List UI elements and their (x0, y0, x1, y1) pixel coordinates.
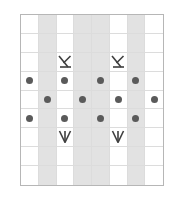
chart-cell-r2-c8 (145, 147, 163, 166)
left-leaning-decrease-icon (110, 54, 126, 70)
purl-dot-icon (79, 96, 86, 103)
chart-cell-r7-c7 (128, 53, 146, 72)
chart-cell-r1-c3 (57, 166, 75, 185)
chart-cell-r3-c1 (21, 128, 39, 147)
purl-dot-icon (26, 77, 33, 84)
chart-cell-r1-c1 (21, 166, 39, 185)
double-decrease-arrow-icon (110, 129, 126, 145)
chart-cell-r3-c2 (39, 128, 57, 147)
chart-cell-r8-c4 (74, 34, 92, 53)
chart-grid (20, 14, 164, 186)
chart-cell-r7-c1 (21, 53, 39, 72)
chart-cell-r6-c1 (21, 72, 39, 91)
chart-grid-wrapper: 864297531 (20, 14, 164, 186)
chart-cell-r9-c2 (39, 15, 57, 34)
chart-cell-r5-c4 (74, 91, 92, 110)
chart-cell-r9-c8 (145, 15, 163, 34)
chart-cell-r4-c6 (110, 109, 128, 128)
chart-cell-r6-c4 (74, 72, 92, 91)
chart-cell-r3-c5 (92, 128, 110, 147)
chart-cell-r5-c7 (128, 91, 146, 110)
chart-cell-r2-c5 (92, 147, 110, 166)
chart-cell-r9-c6 (110, 15, 128, 34)
chart-cell-r2-c7 (128, 147, 146, 166)
chart-cell-r5-c3 (57, 91, 75, 110)
chart-cell-r7-c8 (145, 53, 163, 72)
purl-dot-icon (61, 77, 68, 84)
chart-cell-r4-c5 (92, 109, 110, 128)
chart-cell-r5-c5 (92, 91, 110, 110)
chart-cell-r8-c8 (145, 34, 163, 53)
chart-cell-r7-c3 (57, 53, 75, 72)
purl-dot-icon (115, 96, 122, 103)
chart-cell-r2-c4 (74, 147, 92, 166)
chart-cell-r5-c2 (39, 91, 57, 110)
chart-cell-r5-c1 (21, 91, 39, 110)
purl-dot-icon (132, 115, 139, 122)
purl-dot-icon (97, 115, 104, 122)
purl-dot-icon (151, 96, 158, 103)
double-decrease-arrow-icon (57, 129, 73, 145)
chart-cell-r3-c8 (145, 128, 163, 147)
knitting-chart: 864297531 (0, 0, 186, 199)
chart-cell-r5-c8 (145, 91, 163, 110)
chart-cell-r2-c1 (21, 147, 39, 166)
chart-cell-r4-c7 (128, 109, 146, 128)
chart-cell-r7-c4 (74, 53, 92, 72)
chart-cell-r1-c4 (74, 166, 92, 185)
chart-cell-r8-c1 (21, 34, 39, 53)
chart-cell-r7-c2 (39, 53, 57, 72)
chart-cell-r1-c7 (128, 166, 146, 185)
chart-cell-r8-c7 (128, 34, 146, 53)
chart-cell-r6-c5 (92, 72, 110, 91)
chart-cell-r6-c6 (110, 72, 128, 91)
chart-cell-r9-c3 (57, 15, 75, 34)
chart-cell-r1-c5 (92, 166, 110, 185)
chart-cell-r9-c4 (74, 15, 92, 34)
chart-cell-r7-c6 (110, 53, 128, 72)
chart-cell-r8-c2 (39, 34, 57, 53)
chart-cell-r8-c6 (110, 34, 128, 53)
purl-dot-icon (132, 77, 139, 84)
chart-cell-r7-c5 (92, 53, 110, 72)
chart-cell-r5-c6 (110, 91, 128, 110)
chart-cell-r6-c2 (39, 72, 57, 91)
chart-cell-r8-c5 (92, 34, 110, 53)
chart-cell-r4-c1 (21, 109, 39, 128)
chart-cell-r3-c3 (57, 128, 75, 147)
chart-cell-r1-c6 (110, 166, 128, 185)
chart-cell-r3-c4 (74, 128, 92, 147)
chart-cell-r9-c5 (92, 15, 110, 34)
chart-cell-r6-c8 (145, 72, 163, 91)
chart-cell-r9-c1 (21, 15, 39, 34)
chart-cell-r1-c8 (145, 166, 163, 185)
chart-cell-r6-c7 (128, 72, 146, 91)
purl-dot-icon (97, 77, 104, 84)
chart-cell-r1-c2 (39, 166, 57, 185)
chart-cell-r4-c8 (145, 109, 163, 128)
purl-dot-icon (26, 115, 33, 122)
chart-cell-r2-c2 (39, 147, 57, 166)
chart-cell-r4-c3 (57, 109, 75, 128)
chart-cell-r3-c6 (110, 128, 128, 147)
purl-dot-icon (61, 115, 68, 122)
left-leaning-decrease-icon (57, 54, 73, 70)
chart-cell-r4-c4 (74, 109, 92, 128)
chart-cell-r2-c3 (57, 147, 75, 166)
chart-cell-r9-c7 (128, 15, 146, 34)
purl-dot-icon (44, 96, 51, 103)
chart-cell-r8-c3 (57, 34, 75, 53)
chart-cell-r4-c2 (39, 109, 57, 128)
chart-cell-r6-c3 (57, 72, 75, 91)
chart-cell-r3-c7 (128, 128, 146, 147)
chart-cell-r2-c6 (110, 147, 128, 166)
